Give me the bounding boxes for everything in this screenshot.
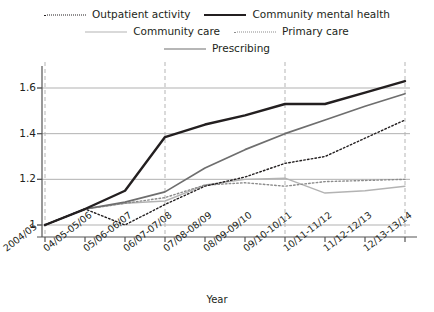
series-line-prescribing bbox=[45, 94, 405, 225]
series-line-outpatient-activity bbox=[45, 120, 405, 225]
y-tick-label: 1.6 bbox=[4, 81, 36, 93]
plot-area bbox=[0, 0, 434, 312]
series-line-community-mental-health bbox=[45, 81, 405, 225]
x-axis-title: Year bbox=[0, 294, 434, 305]
line-chart: Outpatient activityCommunity mental heal… bbox=[0, 0, 434, 312]
y-tick-label: 1.4 bbox=[4, 127, 36, 139]
y-tick-label: 1.2 bbox=[4, 172, 36, 184]
